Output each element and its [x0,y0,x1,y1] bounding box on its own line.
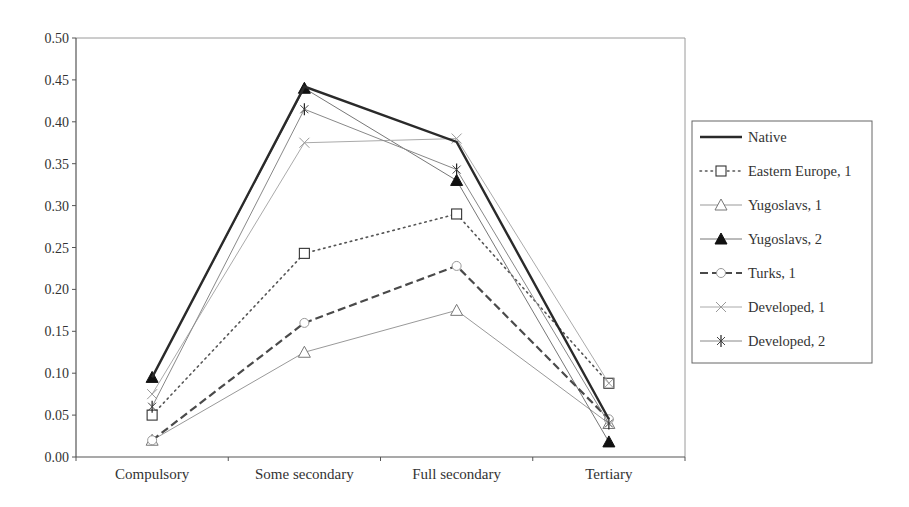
y-tick-label: 0.00 [45,450,70,465]
y-axis-ticks: 0.000.050.100.150.200.250.300.350.400.45… [45,31,77,465]
legend-label: Yugoslavs, 2 [748,231,822,247]
legend: NativeEastern Europe, 1Yugoslavs, 1Yugos… [692,121,872,363]
data-marker-circle-open [717,269,726,278]
series-developed-2 [148,103,613,429]
y-tick-label: 0.15 [45,324,70,339]
legend-label: Turks, 1 [748,265,796,281]
x-axis-ticks: CompulsorySome secondaryFull secondaryTe… [76,457,685,482]
series-developed-1 [147,134,614,400]
series-lines [146,82,615,447]
data-marker-triangle-open [298,346,310,357]
series-yugoslavs-1 [146,304,615,445]
data-marker-square-open [716,166,726,176]
data-marker-triangle-open [451,304,463,315]
line-chart: 0.000.050.100.150.200.250.300.350.400.45… [0,0,909,507]
x-category-label: Compulsory [115,466,190,482]
data-marker-circle-open [148,436,157,445]
series-line [152,310,609,440]
y-tick-label: 0.50 [45,31,70,46]
legend-label: Developed, 1 [748,299,825,315]
x-category-label: Some secondary [255,466,354,482]
series-yugoslavs-2 [146,82,615,447]
y-tick-label: 0.25 [45,241,70,256]
data-marker-square-open [299,248,309,258]
legend-label: Eastern Europe, 1 [748,163,851,179]
series-line [152,88,609,442]
series-native [152,87,609,420]
y-tick-label: 0.40 [45,115,70,130]
legend-label: Native [748,129,787,145]
plot-area [76,38,685,457]
data-marker-star [300,103,308,115]
data-marker-triangle-filled [603,436,615,447]
legend-label: Developed, 2 [748,333,825,349]
y-tick-label: 0.05 [45,408,70,423]
y-tick-label: 0.10 [45,366,70,381]
legend-label: Yugoslavs, 1 [748,197,822,213]
y-tick-label: 0.35 [45,157,70,172]
data-marker-circle-open [300,318,309,327]
y-tick-label: 0.20 [45,282,70,297]
y-tick-label: 0.30 [45,199,70,214]
data-marker-square-open [452,209,462,219]
data-marker-x [147,389,157,399]
series-line [152,87,609,420]
y-tick-label: 0.45 [45,73,70,88]
series-turks-1 [148,261,614,444]
x-category-label: Full secondary [412,466,501,482]
series-line [152,139,609,395]
series-line [152,109,609,423]
data-marker-circle-open [452,261,461,270]
x-category-label: Tertiary [585,466,633,482]
